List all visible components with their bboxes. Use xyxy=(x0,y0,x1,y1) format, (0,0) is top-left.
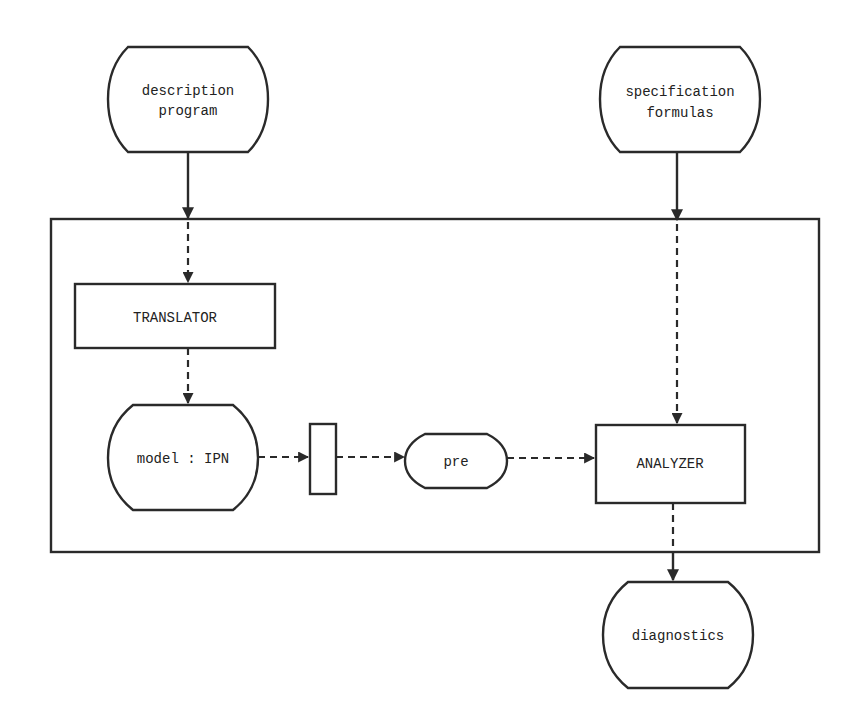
pre-label: pre xyxy=(443,454,468,470)
diagnostics-label: diagnostics xyxy=(632,628,724,644)
specification-formulas-node[interactable]: specification formulas xyxy=(600,47,760,152)
specification-formulas-line1: specification xyxy=(625,84,734,100)
pre-node[interactable]: pre xyxy=(405,434,507,488)
specification-formulas-line2: formulas xyxy=(646,105,713,121)
translator-box[interactable]: TRANSLATOR xyxy=(75,284,275,348)
system-diagram: description program specification formul… xyxy=(0,0,862,723)
model-ipn-label: model : IPN xyxy=(137,451,229,467)
translator-label: TRANSLATOR xyxy=(133,310,218,326)
analyzer-box[interactable]: ANALYZER xyxy=(596,425,745,503)
diagnostics-node[interactable]: diagnostics xyxy=(603,582,753,688)
description-program-line1: description xyxy=(142,83,234,99)
transition-bar[interactable] xyxy=(310,424,336,494)
model-ipn-node[interactable]: model : IPN xyxy=(108,405,258,510)
description-program-line2: program xyxy=(159,103,218,119)
analyzer-label: ANALYZER xyxy=(636,456,704,472)
description-program-node[interactable]: description program xyxy=(108,47,268,152)
